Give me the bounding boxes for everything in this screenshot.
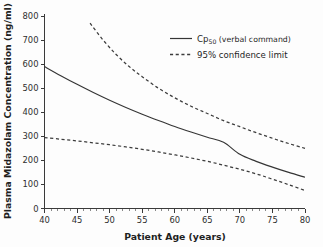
x-tick-label-75: 75	[267, 215, 278, 225]
x-tick-label-40: 40	[39, 215, 50, 225]
legend-cp-subscript: 50	[208, 38, 216, 45]
y-tick-label-200: 200	[23, 155, 39, 165]
y-axis-ticks	[41, 16, 45, 209]
x-tick-label-65: 65	[202, 215, 213, 225]
y-tick-label-500: 500	[23, 83, 39, 93]
series-line-0	[45, 67, 306, 178]
chart-plot-area: 0100200300400500600700800 40455055606570…	[0, 0, 323, 247]
series-line-2	[45, 138, 306, 191]
y-tick-label-800: 800	[23, 11, 39, 21]
y-tick-label-300: 300	[23, 131, 39, 141]
chart-series-group	[45, 23, 306, 190]
x-axis-title: Patient Age (years)	[124, 231, 226, 242]
y-axis-tick-labels: 0100200300400500600700800	[23, 11, 39, 214]
legend-cp-text: Cp	[197, 34, 208, 44]
x-axis-tick-labels: 404550556065707580	[39, 215, 310, 225]
x-tick-label-70: 70	[235, 215, 246, 225]
y-tick-label-400: 400	[23, 107, 39, 117]
chart-legend: Cp50 (verbal command) 95% confidence lim…	[170, 34, 291, 60]
legend-label-cp50: Cp50 (verbal command)	[197, 34, 291, 46]
y-tick-label-100: 100	[23, 179, 39, 189]
chart-figure: 0100200300400500600700800 40455055606570…	[0, 0, 323, 247]
legend-label-confidence: 95% confidence limit	[197, 50, 288, 60]
x-tick-label-60: 60	[169, 215, 180, 225]
x-tick-label-80: 80	[300, 215, 311, 225]
legend-cp-rest: (verbal command)	[216, 35, 290, 44]
y-tick-label-600: 600	[23, 59, 39, 69]
y-axis-title: Plasma Midazolam Concentration (ng/ml)	[2, 3, 13, 219]
x-tick-label-45: 45	[72, 215, 83, 225]
y-tick-label-700: 700	[23, 35, 39, 45]
x-tick-label-55: 55	[137, 215, 148, 225]
x-tick-label-50: 50	[104, 215, 115, 225]
y-tick-label-0: 0	[33, 204, 38, 214]
